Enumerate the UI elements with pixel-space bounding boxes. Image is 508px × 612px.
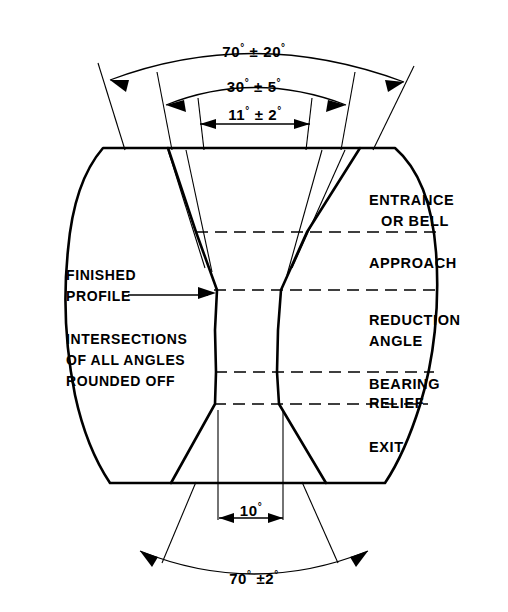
note-rounded-text: INTERSECTIONS OF ALL ANGLES ROUNDED OFF bbox=[66, 331, 192, 389]
zone-label-approach: APPROACH bbox=[369, 255, 457, 271]
label-30-5: 30° ± 5° bbox=[227, 77, 281, 95]
diagram-canvas: 70° ± 20° 30° ± 5° 11° ± 2° 10° bbox=[0, 0, 508, 612]
zone-label-exit: EXIT bbox=[369, 439, 404, 455]
note-rounded-intersections: INTERSECTIONS OF ALL ANGLES ROUNDED OFF bbox=[66, 331, 192, 389]
die-cross-section-diagram: 70° ± 20° 30° ± 5° 11° ± 2° 10° bbox=[0, 0, 508, 612]
label-11-2: 11° ± 2° bbox=[228, 105, 282, 123]
label-70-2: 70° ±2° bbox=[229, 569, 279, 587]
label-70-20: 70° ± 20° bbox=[222, 42, 285, 60]
